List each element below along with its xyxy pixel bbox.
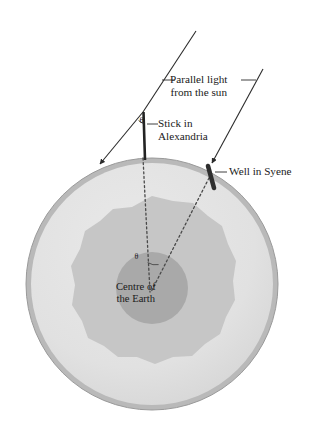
label-well-in-syene: Well in Syene bbox=[229, 165, 291, 178]
label-parallel-light-line1: Parallel light bbox=[170, 73, 227, 86]
label-stick-line2: Alexandria bbox=[158, 130, 208, 143]
label-stick-in-alexandria: Stick in Alexandria bbox=[158, 117, 208, 143]
eratosthenes-diagram bbox=[0, 0, 310, 439]
parallel-sun-ray-left bbox=[143, 31, 196, 112]
theta-symbol-at-centre: θ bbox=[135, 252, 139, 261]
label-stick-line1: Stick in bbox=[158, 117, 208, 130]
label-centre-of-the-earth: Centre of the Earth bbox=[116, 281, 156, 306]
label-centre-line2: the Earth bbox=[116, 293, 156, 305]
parallel-sun-ray-left-arrow bbox=[100, 112, 143, 164]
label-parallel-light-line2: from the sun bbox=[170, 86, 227, 99]
theta-symbol-at-stick: θ bbox=[140, 115, 144, 125]
label-centre-line1: Centre of bbox=[116, 281, 156, 293]
diagram-canvas: Parallel light from the sun Stick in Ale… bbox=[0, 0, 310, 439]
label-parallel-light: Parallel light from the sun bbox=[170, 73, 227, 99]
